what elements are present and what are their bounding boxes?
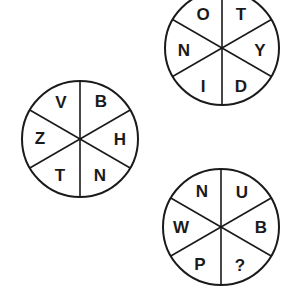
segment-letter: U [236, 183, 248, 202]
segment-letter: I [201, 77, 206, 96]
segment-letter: T [236, 5, 247, 24]
segment-letter: W [173, 218, 190, 237]
letter-wheel-top-right: O T Y D I N [165, 0, 279, 105]
segment-letter: O [196, 5, 209, 24]
segment-letter: H [114, 130, 126, 149]
puzzle-canvas: O T Y D I N V B H N T Z N U B ? P W [0, 0, 287, 290]
segment-letter: P [194, 255, 205, 274]
letter-wheel-bottom-right: N U B ? P W [163, 169, 279, 285]
segment-letter: N [196, 182, 208, 201]
segment-letter: D [235, 77, 247, 96]
segment-letter: B [95, 92, 107, 111]
segment-letter: N [94, 166, 106, 185]
segment-letter: V [55, 93, 67, 112]
segment-letter: Z [35, 129, 45, 148]
segment-letter: Y [254, 41, 266, 60]
missing-letter-question-mark: ? [235, 256, 245, 275]
segment-letter: T [55, 166, 66, 185]
segment-letter: N [178, 41, 190, 60]
letter-wheel-left: V B H N T Z [22, 81, 138, 197]
segment-letter: B [255, 218, 267, 237]
